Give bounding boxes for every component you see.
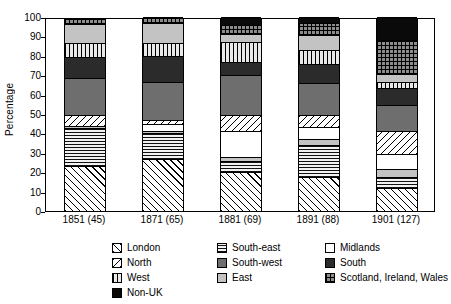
bar-segment [221,115,261,131]
legend-item[interactable]: West [112,270,217,285]
y-tick-100: 100 [17,14,41,22]
stacked-bar[interactable] [64,19,106,211]
bar-segment [377,88,417,105]
bar-segment [377,131,417,154]
bar-segment [377,154,417,170]
bar-segment [65,78,105,115]
y-tick-30: 30 [17,150,41,158]
y-tick-mark [41,57,45,58]
bar-segment [377,74,417,82]
y-tick-90: 90 [17,33,41,41]
bar-segment [221,161,261,173]
legend-label: South [340,258,366,268]
y-tick-mark [41,37,45,38]
y-tick-50: 50 [17,111,41,119]
legend-label: West [127,273,150,283]
legend-swatch-horizontal-lines-icon [217,243,227,253]
legend-swatch-dark-gray-icon [325,258,335,268]
legend-spacer [217,285,325,300]
legend-item[interactable]: Scotland, Ireland, Wales [325,270,437,285]
legend-item[interactable]: Non-UK [112,285,217,300]
x-tick-label: 1901 (127) [341,214,451,225]
y-tick-mark [41,76,45,77]
bar-segment [65,126,105,128]
bar-segment [143,82,183,120]
bar-segment [377,177,417,188]
y-tick-mark [41,96,45,97]
legend-swatch-white-icon [325,243,335,253]
legend-label: South-east [232,243,280,253]
bar-segment [299,64,339,83]
bar-segment [377,40,417,74]
legend-label: South-west [232,258,282,268]
y-tick-mark [41,212,45,213]
legend-spacer [325,285,437,300]
legend-label: Non-UK [127,288,163,298]
y-tick-mark [41,134,45,135]
bar-segment [65,43,105,57]
bar-segment [377,169,417,177]
bar-segment [299,17,339,23]
legend-swatch-medium-gray-icon [217,258,227,268]
legend-label: East [232,273,252,283]
bar-segment [143,159,183,211]
bar-segment [221,131,261,156]
bar-segment [221,157,261,161]
bar-segment [65,18,105,24]
legend-swatch-vertical-lines-icon [112,273,122,283]
legend-item[interactable]: London [112,240,217,255]
y-tick-mark [41,173,45,174]
bar-segment [299,127,339,140]
bar-segment [221,25,261,35]
bar-segment [65,128,105,167]
bar-segment [221,62,261,76]
bar-segment [143,124,183,132]
y-tick-10: 10 [17,189,41,197]
y-tick-80: 80 [17,53,41,61]
bar-segment [221,17,261,25]
bar-segment [377,17,417,40]
legend-item[interactable]: Midlands [325,240,437,255]
bar-segment [143,56,183,82]
bar-segment [221,42,261,61]
legend-item[interactable]: South [325,255,437,270]
y-tick-mark [41,18,45,19]
stacked-bar[interactable] [142,19,184,211]
bar-segment [221,75,261,115]
bar-segment [299,35,339,50]
bar-segment [143,131,183,133]
bar-segment [65,24,105,43]
y-tick-70: 70 [17,72,41,80]
bar-segment [143,133,183,158]
legend-label: Scotland, Ireland, Wales [340,273,448,283]
legend-item[interactable]: South-west [217,255,325,270]
bar-segment [143,43,183,56]
bar-segment [377,82,417,88]
bar-segment [221,172,261,211]
bar-segment [143,23,183,43]
y-axis-title: Percentage [2,64,16,154]
bar-segment [299,145,339,177]
stacked-bar[interactable] [298,19,340,211]
bar-segment [299,115,339,127]
bar-segment [377,105,417,130]
stacked-bar[interactable] [376,19,418,211]
legend-swatch-light-gray-icon [217,273,227,283]
bar-segment [143,120,183,124]
plot-area [45,18,435,212]
bar-segment [65,115,105,126]
stacked-bar[interactable] [220,19,262,211]
legend-swatch-reverse-diagonal-hatch-icon [112,258,122,268]
legend-item[interactable]: East [217,270,325,285]
legend-swatch-diagonal-hatch-icon [112,243,122,253]
y-tick-mark [41,154,45,155]
bar-segment [221,34,261,42]
bar-segment [65,57,105,78]
legend-item[interactable]: North [112,255,217,270]
legend-item[interactable]: South-east [217,240,325,255]
bar-segment [299,177,339,211]
bar-segment [377,188,417,211]
y-tick-mark [41,115,45,116]
bar-segment [299,23,339,36]
